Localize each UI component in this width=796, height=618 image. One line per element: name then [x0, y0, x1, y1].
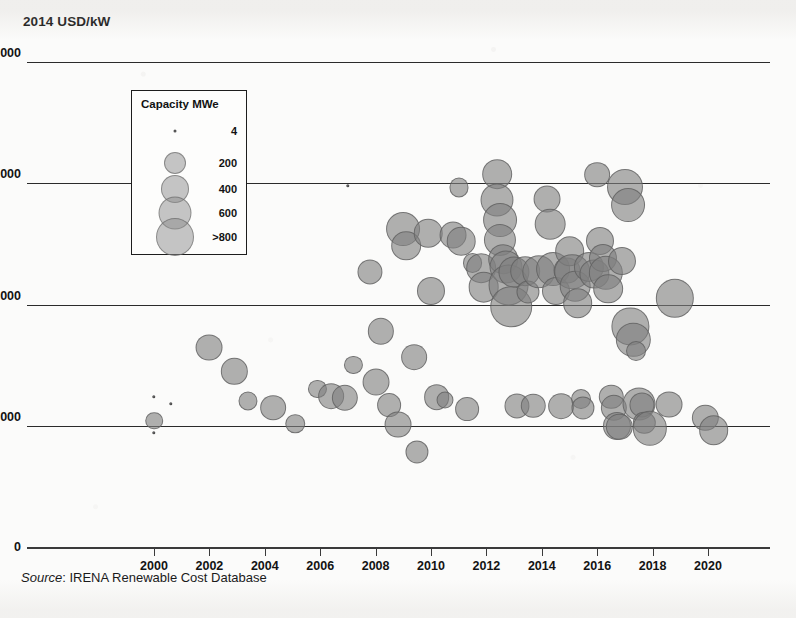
- x-tick-label-2006: 2006: [306, 559, 334, 573]
- data-point: [332, 385, 358, 411]
- y-tick-label-4000: 4 000: [0, 289, 21, 303]
- data-point: [521, 394, 545, 418]
- data-point: [384, 411, 411, 438]
- x-tick-label-2020: 2020: [694, 559, 722, 573]
- y-axis-title: 2014 USD/kW: [23, 14, 110, 29]
- data-point: [447, 227, 476, 256]
- data-point: [239, 391, 258, 410]
- x-tick-2010: [431, 547, 432, 556]
- x-tick-label-2014: 2014: [528, 559, 556, 573]
- legend-title: Capacity MWe: [141, 98, 219, 110]
- y-tick-label-6000: 6 000: [0, 167, 21, 181]
- data-point: [368, 318, 394, 344]
- data-point: [656, 279, 694, 317]
- x-tick-2012: [486, 547, 487, 556]
- legend-bubble-200: [164, 152, 186, 174]
- data-point: [406, 440, 429, 463]
- data-point: [449, 178, 468, 197]
- data-point: [260, 395, 286, 421]
- legend-label-400: 400: [219, 183, 237, 195]
- data-point: [535, 209, 566, 240]
- x-tick-label-2012: 2012: [472, 559, 500, 573]
- x-tick-2016: [597, 547, 598, 556]
- data-point: [417, 277, 445, 305]
- data-point: [626, 341, 646, 361]
- data-point: [611, 188, 645, 222]
- data-point: [221, 358, 247, 384]
- data-point: [196, 334, 223, 361]
- x-tick-label-2010: 2010: [417, 559, 445, 573]
- data-point: [358, 260, 383, 285]
- x-tick-label-2018: 2018: [639, 559, 667, 573]
- data-point: [145, 412, 163, 430]
- data-point: [152, 395, 155, 398]
- data-point: [402, 344, 428, 370]
- legend-label-4: 4: [231, 125, 237, 137]
- x-tick-2020: [708, 547, 709, 556]
- y-tick-label-0: 0: [14, 540, 21, 554]
- x-tick-2000: [154, 547, 155, 556]
- legend-bubble-4: [174, 130, 177, 133]
- data-point: [656, 391, 683, 418]
- x-tick-label-2008: 2008: [362, 559, 390, 573]
- legend-label-600: 600: [219, 207, 237, 219]
- x-tick-2002: [209, 547, 210, 556]
- x-tick-2006: [320, 547, 321, 556]
- data-point: [436, 392, 453, 409]
- x-tick-2014: [542, 547, 543, 556]
- x-tick-2008: [376, 547, 377, 556]
- x-tick-label-2016: 2016: [583, 559, 611, 573]
- data-point: [593, 274, 623, 304]
- data-point: [455, 397, 479, 421]
- y-tick-label-8000: 8 000: [0, 46, 21, 60]
- data-point: [563, 288, 593, 318]
- data-point: [699, 415, 729, 445]
- legend-label-800: >800: [212, 231, 237, 243]
- data-point: [344, 356, 362, 374]
- source-caption: Source: IRENA Renewable Cost Database: [21, 570, 267, 585]
- size-legend: Capacity MWe 4200400600>800: [131, 90, 247, 255]
- data-point: [286, 414, 306, 434]
- x-tick-2018: [653, 547, 654, 556]
- data-point: [346, 184, 349, 187]
- data-point: [414, 219, 443, 248]
- data-point: [606, 414, 632, 440]
- legend-label-200: 200: [219, 157, 237, 169]
- x-axis-line: [27, 547, 770, 549]
- geothermal-cost-bubble-chart: 2014 USD/kW 02 0004 0006 0008 000 200020…: [0, 0, 796, 618]
- source-label: Source: [21, 570, 62, 585]
- x-tick-2004: [265, 547, 266, 556]
- data-point: [362, 369, 389, 396]
- data-point: [608, 247, 636, 275]
- data-point: [169, 402, 172, 405]
- legend-bubble-800: [156, 218, 194, 256]
- data-point: [152, 431, 155, 434]
- source-value: IRENA Renewable Cost Database: [69, 570, 266, 585]
- data-point: [572, 396, 595, 419]
- y-tick-label-2000: 2 000: [0, 410, 21, 424]
